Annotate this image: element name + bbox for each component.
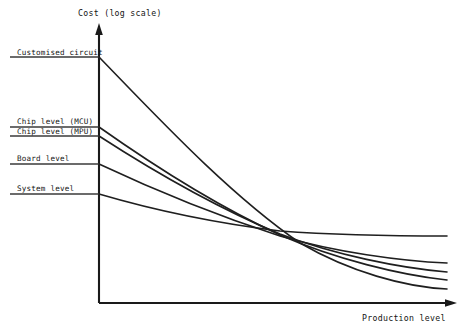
- series-label-board-level: Board level: [17, 154, 70, 163]
- series-label-chip-level-mpu: Chip level (MPU): [17, 127, 93, 136]
- series-label-system-level: System level: [17, 184, 74, 193]
- curve-chip-level-mpu: [99, 136, 447, 272]
- axes-group: [95, 23, 457, 307]
- curve-chip-level-mcu: [99, 127, 447, 280]
- y-axis-title: Cost (log scale): [78, 8, 162, 18]
- series-label-chip-level-mcu: Chip level (MCU): [17, 117, 93, 126]
- x-axis-title: Production level: [362, 313, 446, 323]
- curve-system-level: [99, 194, 447, 236]
- curve-customised-circuit: [99, 57, 447, 289]
- cost-vs-production-line-chart: Cost (log scale) Production level Custom…: [0, 0, 470, 329]
- series-label-customised-circuit: Customised circuit: [17, 48, 103, 57]
- chart-container: Cost (log scale) Production level Custom…: [0, 0, 470, 329]
- series-curves-group: [99, 57, 447, 289]
- x-axis-arrow-icon: [445, 299, 457, 307]
- curve-board-level: [99, 164, 447, 263]
- y-axis-arrow-icon: [95, 23, 103, 35]
